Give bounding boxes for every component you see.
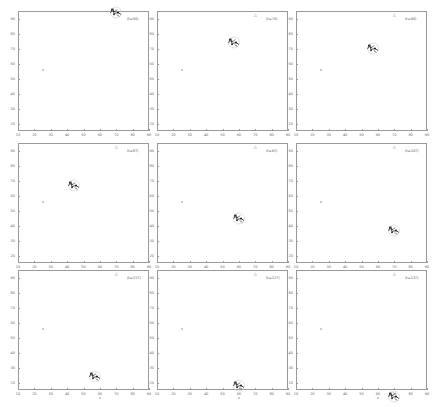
x-tick-mark bbox=[100, 129, 101, 131]
y-tick-mark bbox=[157, 383, 159, 384]
x-tick-label: 50 bbox=[220, 265, 224, 269]
start-point-marker bbox=[42, 328, 44, 330]
y-tick-mark bbox=[157, 34, 159, 35]
target-triangle-icon: △ bbox=[393, 12, 396, 17]
x-tick-mark bbox=[190, 129, 191, 131]
y-tick-label: 60 bbox=[144, 321, 154, 325]
target-triangle-icon: △ bbox=[393, 144, 396, 149]
x-tick-label: 10 bbox=[16, 133, 20, 137]
y-tick-label: 40 bbox=[283, 92, 293, 96]
x-tick-mark bbox=[345, 129, 346, 131]
x-tick-label: 30 bbox=[327, 133, 331, 137]
x-tick-mark bbox=[411, 261, 412, 263]
y-tick-mark bbox=[296, 49, 298, 50]
x-tick-mark bbox=[345, 388, 346, 390]
plot-panel-5 bbox=[157, 143, 288, 263]
x-tick-mark bbox=[255, 388, 256, 390]
panel-time-label: (t=117) bbox=[127, 276, 141, 280]
plot-panel-8 bbox=[157, 270, 288, 390]
x-tick-label: 60 bbox=[98, 265, 102, 269]
x-tick-label: 80 bbox=[408, 392, 412, 396]
y-tick-mark bbox=[157, 278, 159, 279]
y-tick-mark bbox=[157, 94, 159, 95]
swarm-cluster bbox=[231, 210, 247, 229]
y-tick-mark bbox=[157, 124, 159, 125]
y-tick-mark bbox=[296, 109, 298, 110]
y-tick-label: 30 bbox=[144, 107, 154, 111]
x-tick-label: 20 bbox=[310, 392, 314, 396]
y-tick-label: 20 bbox=[5, 381, 15, 385]
y-tick-mark bbox=[157, 19, 159, 20]
x-tick-mark bbox=[288, 261, 289, 263]
x-tick-label: 20 bbox=[32, 265, 36, 269]
y-tick-mark bbox=[296, 293, 298, 294]
x-tick-label: 30 bbox=[49, 265, 53, 269]
plot-panel-4 bbox=[18, 143, 149, 263]
y-tick-mark bbox=[296, 94, 298, 95]
target-triangle-icon: △ bbox=[115, 144, 118, 149]
y-tick-label: 60 bbox=[144, 62, 154, 66]
y-tick-label: 20 bbox=[283, 254, 293, 258]
y-tick-label: 40 bbox=[5, 224, 15, 228]
panel-time-label: (t=127) bbox=[266, 276, 280, 280]
x-tick-label: 70 bbox=[392, 265, 396, 269]
y-tick-mark bbox=[18, 94, 20, 95]
y-tick-label: 20 bbox=[144, 254, 154, 258]
panel-time-label: (t=90) bbox=[405, 17, 417, 21]
x-tick-mark bbox=[345, 261, 346, 263]
swarm-cluster bbox=[231, 378, 247, 397]
x-tick-label: 80 bbox=[269, 392, 273, 396]
x-tick-mark bbox=[255, 261, 256, 263]
x-tick-mark bbox=[100, 261, 101, 263]
y-tick-label: 50 bbox=[5, 77, 15, 81]
goal-point-marker bbox=[99, 397, 101, 399]
target-triangle-icon: △ bbox=[393, 271, 396, 276]
x-tick-label: 50 bbox=[359, 265, 363, 269]
y-tick-mark bbox=[157, 368, 159, 369]
x-tick-mark bbox=[157, 261, 158, 263]
y-tick-label: 90 bbox=[283, 276, 293, 280]
y-tick-label: 40 bbox=[144, 351, 154, 355]
y-tick-label: 20 bbox=[5, 122, 15, 126]
x-tick-mark bbox=[18, 129, 19, 131]
x-tick-mark bbox=[100, 388, 101, 390]
plot-panel-1 bbox=[18, 11, 149, 131]
x-tick-label: 40 bbox=[65, 133, 69, 137]
swarm-cluster bbox=[66, 177, 82, 196]
y-tick-label: 60 bbox=[283, 62, 293, 66]
x-tick-label: 80 bbox=[269, 265, 273, 269]
y-tick-label: 60 bbox=[5, 62, 15, 66]
x-tick-mark bbox=[67, 261, 68, 263]
x-tick-mark bbox=[149, 129, 150, 131]
y-tick-mark bbox=[157, 211, 159, 212]
y-tick-label: 30 bbox=[283, 239, 293, 243]
x-tick-mark bbox=[133, 261, 134, 263]
y-tick-mark bbox=[18, 278, 20, 279]
x-tick-label: 20 bbox=[32, 133, 36, 137]
y-tick-label: 50 bbox=[283, 209, 293, 213]
x-tick-mark bbox=[18, 388, 19, 390]
target-triangle-icon: △ bbox=[115, 271, 118, 276]
y-tick-mark bbox=[296, 79, 298, 80]
x-tick-label: 30 bbox=[188, 133, 192, 137]
x-tick-mark bbox=[329, 261, 330, 263]
y-tick-mark bbox=[157, 353, 159, 354]
goal-point-marker bbox=[238, 397, 240, 399]
x-tick-label: 40 bbox=[343, 133, 347, 137]
x-tick-label: 10 bbox=[294, 265, 298, 269]
x-tick-mark bbox=[378, 129, 379, 131]
x-tick-mark bbox=[51, 261, 52, 263]
y-tick-label: 30 bbox=[144, 239, 154, 243]
x-tick-label: 20 bbox=[32, 392, 36, 396]
x-tick-label: 70 bbox=[253, 265, 257, 269]
x-tick-mark bbox=[149, 388, 150, 390]
x-tick-label: 40 bbox=[343, 265, 347, 269]
y-tick-label: 30 bbox=[283, 107, 293, 111]
goal-point-marker bbox=[377, 397, 379, 399]
y-tick-label: 30 bbox=[283, 366, 293, 370]
y-tick-mark bbox=[18, 34, 20, 35]
y-tick-mark bbox=[296, 196, 298, 197]
x-tick-label: 40 bbox=[65, 265, 69, 269]
y-tick-label: 40 bbox=[144, 92, 154, 96]
y-tick-label: 80 bbox=[283, 32, 293, 36]
